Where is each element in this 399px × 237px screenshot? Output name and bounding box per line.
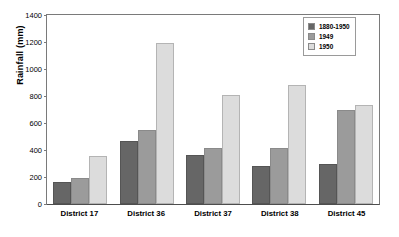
x-tick-label: District 36: [113, 209, 180, 225]
legend-label: 1880-1950: [319, 23, 350, 30]
bar: [288, 85, 306, 204]
legend: 1880-195019491950: [303, 17, 356, 56]
bar: [156, 43, 174, 204]
bar: [186, 155, 204, 204]
bar: [337, 110, 355, 205]
bar-group: [113, 15, 179, 204]
x-tick-label: District 17: [46, 209, 113, 225]
bar: [252, 166, 270, 204]
legend-label: 1950: [319, 43, 333, 50]
rainfall-bar-chart: Rainfall (mm) 1400120010008006004002000 …: [0, 0, 399, 237]
y-tick-mark: [44, 204, 47, 205]
bar-group: [180, 15, 246, 204]
x-tick-label: District 37: [180, 209, 247, 225]
x-axis-labels: District 17District 36District 37Distric…: [46, 209, 380, 225]
legend-swatch-icon: [308, 33, 315, 40]
bar: [270, 148, 288, 204]
legend-swatch-icon: [308, 23, 315, 30]
legend-item: 1950: [308, 42, 350, 51]
legend-label: 1949: [319, 33, 333, 40]
bar: [222, 95, 240, 204]
bar-group: [47, 15, 113, 204]
bar: [89, 156, 107, 204]
legend-item: 1880-1950: [308, 22, 350, 31]
bar: [120, 141, 138, 204]
bar: [138, 130, 156, 204]
legend-item: 1949: [308, 32, 350, 41]
bar: [53, 182, 71, 204]
bar: [71, 178, 89, 204]
legend-swatch-icon: [308, 43, 315, 50]
bar: [355, 105, 373, 204]
bar: [204, 148, 222, 204]
x-tick-label: District 38: [246, 209, 313, 225]
bar: [319, 164, 337, 205]
x-tick-label: District 45: [313, 209, 380, 225]
